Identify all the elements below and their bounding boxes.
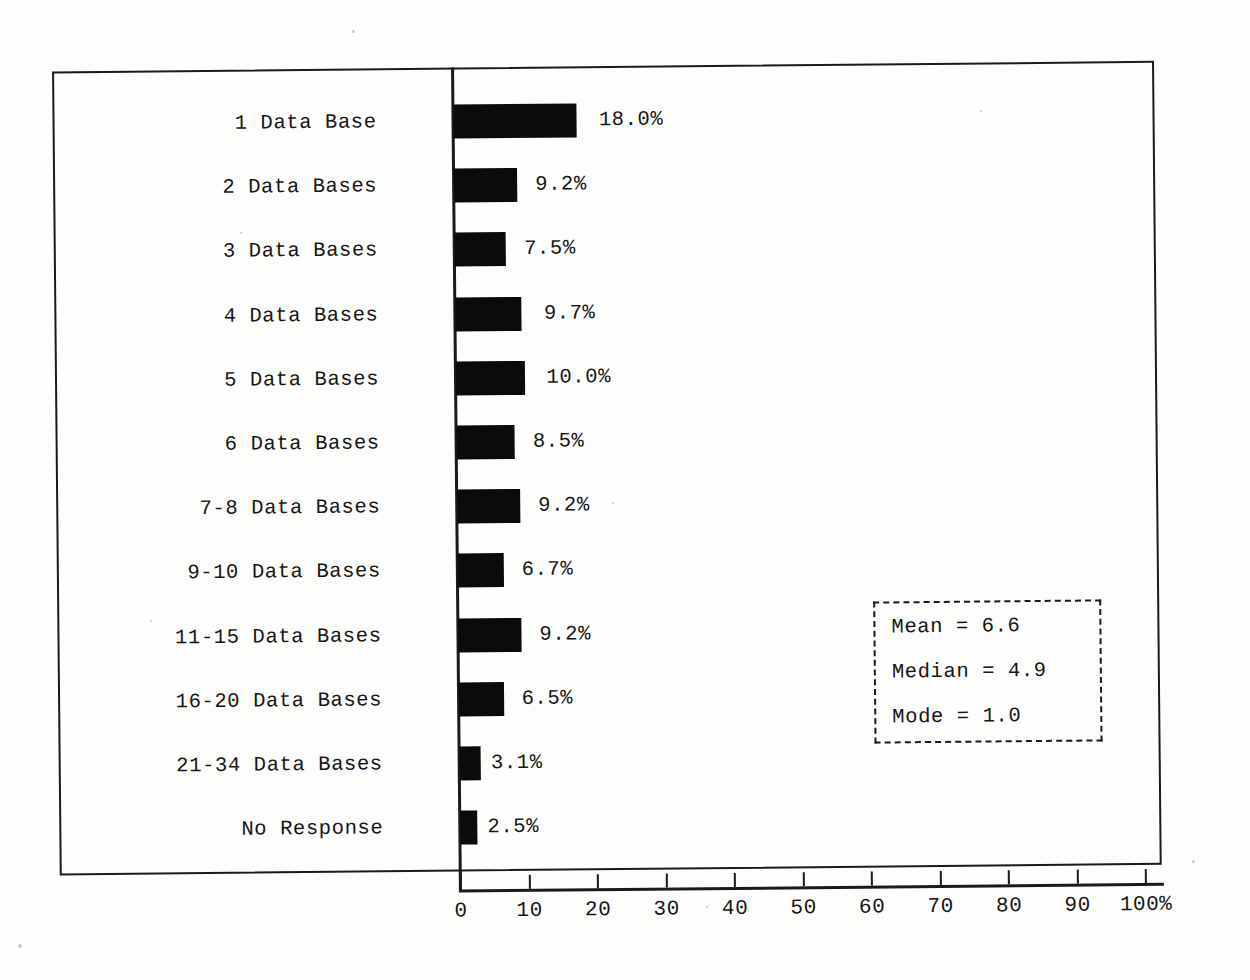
bar [454, 168, 517, 203]
bar-value-label: 9.2% [535, 166, 587, 202]
bar [453, 103, 577, 138]
bar-category-label: 6 Data Bases [0, 425, 380, 465]
bar-row: 2 Data Bases9.2% [0, 160, 1247, 208]
bar-value-label: 8.5% [533, 423, 585, 459]
x-axis-tick [460, 870, 462, 890]
x-axis-tick [597, 874, 599, 888]
bar [455, 297, 522, 332]
x-axis-tick [939, 871, 941, 885]
bar [456, 361, 525, 396]
bar-row: 4 Data Bases9.7% [0, 289, 1249, 337]
bar [458, 618, 521, 653]
bar-row: 7-8 Data Bases9.2% [0, 481, 1250, 529]
chart-canvas: 1 Data Base18.0%2 Data Bases9.2%3 Data B… [0, 0, 1250, 980]
bar-row: No Response2.5% [3, 802, 1250, 850]
bar-row: 9-10 Data Bases6.7% [1, 545, 1250, 593]
x-axis-tick-label: 50 [769, 896, 839, 920]
bar-value-label: 9.7% [544, 295, 596, 331]
bar [457, 489, 520, 524]
bar-value-label: 7.5% [524, 231, 576, 267]
bar-category-label: 11-15 Data Bases [1, 618, 381, 658]
bar-value-label: 6.7% [522, 552, 574, 588]
x-axis-tick [802, 872, 804, 886]
x-axis-tick-label: 60 [837, 895, 907, 919]
x-axis-tick-label: 30 [632, 897, 702, 921]
bar-category-label: 2 Data Bases [0, 169, 377, 209]
x-axis-tick [871, 872, 873, 886]
bar-value-label: 9.2% [539, 616, 591, 652]
bar-category-label: 7-8 Data Bases [0, 489, 380, 529]
bar-row: 21-34 Data Bases3.1% [3, 738, 1250, 786]
bar-category-label: 1 Data Base [0, 104, 377, 144]
x-axis-tick [1145, 869, 1147, 883]
stats-line-mean: Mean = 6.6 [891, 614, 1020, 638]
bar-category-label: 16-20 Data Bases [2, 682, 382, 722]
x-axis-tick-label: 20 [563, 898, 633, 922]
bar-category-label: 21-34 Data Bases [3, 746, 383, 786]
bar-row: 1 Data Base18.0% [0, 96, 1247, 144]
bar [459, 682, 504, 716]
x-axis-tick [734, 873, 736, 887]
bar-value-label: 2.5% [487, 809, 539, 845]
bar-row: 6 Data Bases8.5% [0, 417, 1250, 465]
bar [456, 425, 515, 460]
bar-value-label: 3.1% [491, 745, 543, 781]
stats-line-mode: Mode = 1.0 [892, 704, 1021, 728]
x-axis-tick-label: 90 [1042, 893, 1112, 917]
x-axis-tick-label: 80 [974, 894, 1044, 918]
x-axis-tick [665, 874, 667, 888]
bar-category-label: 9-10 Data Bases [1, 554, 381, 594]
bar-category-label: 5 Data Bases [0, 361, 379, 401]
bar [455, 232, 507, 266]
bar-value-label: 9.2% [538, 487, 590, 523]
bar-category-label: 4 Data Bases [0, 297, 379, 337]
stats-line-median: Median = 4.9 [892, 659, 1047, 683]
bar [460, 811, 477, 845]
statistics-box: Mean = 6.6 Median = 4.9 Mode = 1.0 [873, 599, 1102, 743]
x-axis-tick-label: 100% [1111, 893, 1181, 917]
bar-row: 5 Data Bases10.0% [0, 353, 1249, 401]
bar-row: 3 Data Bases7.5% [0, 224, 1248, 272]
x-axis-tick [1008, 870, 1010, 884]
x-axis-tick-label: 10 [495, 899, 565, 923]
bar-value-label: 18.0% [599, 102, 664, 139]
bar [460, 746, 482, 780]
bar-value-label: 10.0% [546, 359, 611, 396]
bar-rows-container: 1 Data Base18.0%2 Data Bases9.2%3 Data B… [0, 0, 1250, 980]
x-axis-tick [1076, 870, 1078, 884]
x-axis-tick-label: 0 [426, 899, 496, 923]
bar-category-label: No Response [3, 810, 383, 850]
x-axis-tick [528, 875, 530, 889]
bar [458, 554, 504, 588]
bar-value-label: 6.5% [521, 680, 573, 716]
x-axis-tick-label: 70 [905, 895, 975, 919]
bar-category-label: 3 Data Bases [0, 233, 378, 273]
x-axis-tick-label: 40 [700, 897, 770, 921]
